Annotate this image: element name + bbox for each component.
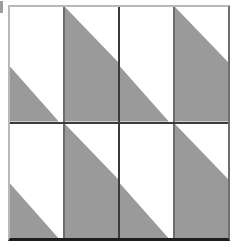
lower-left-triangle-shape bbox=[10, 124, 63, 239]
lower-left-triangle-shape bbox=[120, 7, 173, 122]
upper-left-wedge-shape bbox=[175, 124, 228, 239]
lower-left-triangle-panel bbox=[120, 124, 173, 239]
quadrant-grid bbox=[10, 7, 228, 238]
upper-left-wedge-shape bbox=[65, 124, 118, 239]
bottom-right-quadrant bbox=[120, 124, 228, 239]
upper-left-wedge-panel bbox=[65, 7, 118, 122]
pattern-frame-border bbox=[8, 5, 230, 241]
upper-left-wedge-panel bbox=[65, 124, 118, 239]
top-left-quadrant bbox=[10, 7, 118, 122]
top-right-quadrant bbox=[120, 7, 228, 122]
upper-left-wedge-shape bbox=[175, 7, 228, 122]
lower-left-triangle-panel bbox=[10, 7, 63, 122]
lower-left-triangle-panel bbox=[120, 7, 173, 122]
left-edge-tick-mark bbox=[0, 1, 3, 13]
upper-left-wedge-panel bbox=[175, 7, 228, 122]
geometric-pattern-figure bbox=[0, 0, 235, 247]
lower-left-triangle-shape bbox=[120, 124, 173, 239]
lower-left-triangle-shape bbox=[10, 7, 63, 122]
upper-left-wedge-shape bbox=[65, 7, 118, 122]
upper-left-wedge-panel bbox=[175, 124, 228, 239]
lower-left-triangle-panel bbox=[10, 124, 63, 239]
bottom-left-quadrant bbox=[10, 124, 118, 239]
